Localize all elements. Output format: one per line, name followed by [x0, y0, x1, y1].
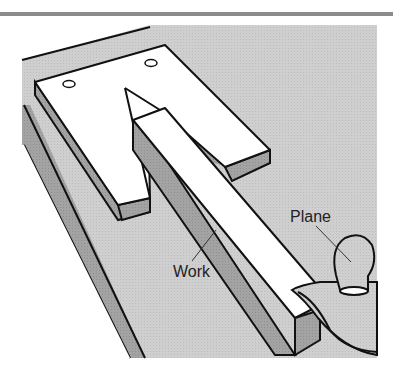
- work-label: Work: [173, 263, 211, 280]
- hole-right-icon: [145, 60, 157, 67]
- jig-illustration: Plane Work: [0, 0, 401, 373]
- plane-label: Plane: [290, 208, 331, 225]
- hole-left-icon: [63, 81, 75, 88]
